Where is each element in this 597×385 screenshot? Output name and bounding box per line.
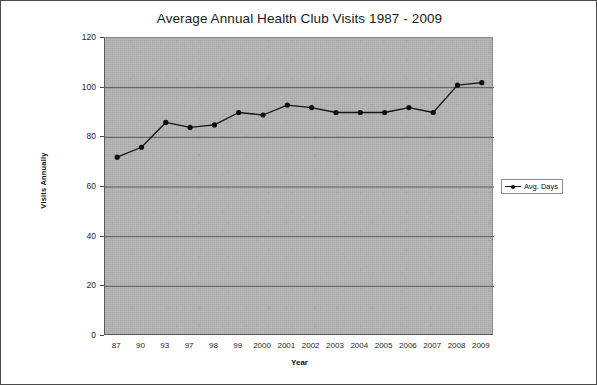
legend-line-marker-icon <box>505 183 521 190</box>
data-point <box>212 122 217 127</box>
y-axis-tick-label: 0 <box>56 330 96 340</box>
legend-label-avg-days: Avg. Days <box>524 182 558 191</box>
x-axis-title: Year <box>1 358 597 367</box>
data-point <box>309 105 314 110</box>
chart-title: Average Annual Health Club Visits 1987 -… <box>1 11 597 26</box>
x-axis-tick-label: 2009 <box>466 341 496 350</box>
data-point <box>455 83 460 88</box>
y-axis-tick-mark <box>100 186 104 187</box>
data-point <box>382 110 387 115</box>
data-point <box>406 105 411 110</box>
y-axis-tick-mark <box>100 285 104 286</box>
chart-screenshot: Average Annual Health Club Visits 1987 -… <box>0 0 597 385</box>
data-point <box>358 110 363 115</box>
data-point <box>139 145 144 150</box>
y-axis-tick-mark <box>100 136 104 137</box>
data-point <box>115 155 120 160</box>
data-point <box>479 80 484 85</box>
data-line-svg <box>105 38 494 336</box>
data-point <box>260 112 265 117</box>
y-axis-title: Visits Annually <box>39 121 48 241</box>
gridlines <box>105 88 494 287</box>
y-axis-tick-mark <box>100 87 104 88</box>
y-axis-tick-label: 120 <box>56 32 96 42</box>
plot-area <box>104 37 493 335</box>
y-axis-tick-label: 100 <box>56 82 96 92</box>
data-point <box>333 110 338 115</box>
y-axis-tick-mark <box>100 37 104 38</box>
y-axis-tick-mark <box>100 236 104 237</box>
data-point <box>163 120 168 125</box>
series-markers-avg-days <box>115 80 485 160</box>
data-point <box>431 110 436 115</box>
series-line-avg-days <box>117 83 482 158</box>
data-point <box>285 102 290 107</box>
y-axis-tick-label: 60 <box>56 181 96 191</box>
data-point <box>187 125 192 130</box>
y-axis-tick-label: 80 <box>56 131 96 141</box>
y-axis-tick-label: 40 <box>56 231 96 241</box>
y-axis-tick-label: 20 <box>56 280 96 290</box>
y-axis-tick-mark <box>100 335 104 336</box>
legend: Avg. Days <box>501 179 563 194</box>
data-point <box>236 110 241 115</box>
